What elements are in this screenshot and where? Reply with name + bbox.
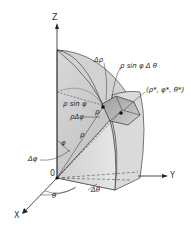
point-rho bbox=[101, 105, 105, 109]
rho-delta-phi-label: ρΔφ bbox=[70, 114, 84, 121]
delta-theta-label: Δθ bbox=[91, 187, 100, 194]
origin-label: 0 bbox=[50, 170, 55, 178]
z-axis-label: Z bbox=[52, 14, 57, 22]
point-star bbox=[119, 111, 123, 115]
origin-point bbox=[55, 176, 58, 179]
rho-ray-label: ρ bbox=[80, 132, 84, 139]
rho-sin-phi-label: ρ sin φ bbox=[63, 101, 87, 108]
z-axis-arrow-icon bbox=[55, 23, 59, 29]
delta-rho-label: Δρ bbox=[94, 57, 103, 64]
delta-phi-label: Δφ bbox=[28, 156, 37, 163]
rho-sin-phi-delta-theta-label: ρ sin φ Δ θ bbox=[120, 63, 157, 70]
point-coordinates-label: (ρ*, φ*, θ*) bbox=[146, 87, 184, 94]
rho-point-label: ρ bbox=[95, 109, 99, 116]
theta-label: θ bbox=[52, 193, 56, 200]
x-axis-label: X bbox=[14, 212, 19, 220]
y-axis-label: Y bbox=[170, 172, 175, 180]
y-axis-arrow-icon bbox=[162, 174, 168, 178]
phi-label: φ bbox=[61, 140, 66, 147]
spherical-volume-diagram: Z Y X 0 Δρ ρ sin φ Δ θ (ρ*, φ*, θ*) ρ si… bbox=[0, 0, 191, 231]
